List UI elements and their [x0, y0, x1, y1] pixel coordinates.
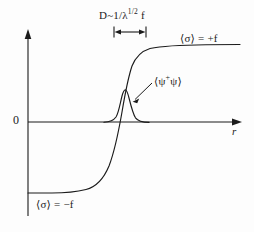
wall-width-label-tail: f — [138, 9, 145, 21]
measure-arrowhead-right — [139, 29, 146, 34]
x-axis — [28, 119, 242, 126]
y-axis-arrowhead — [25, 29, 32, 39]
condensate-label-tail: ψ⟩ — [170, 75, 182, 87]
wall-width-label-exponent: 1/2 — [128, 7, 138, 16]
wall-width-measure — [114, 27, 146, 38]
condensate-pointer-arrow — [133, 83, 152, 103]
pointer-line — [135, 83, 152, 100]
wall-width-label-base: D~1/λ — [99, 9, 128, 21]
sigma-positive-label: ⟨σ⟩ = +f — [180, 33, 218, 44]
origin-label: 0 — [13, 114, 19, 126]
x-axis-label: r — [232, 126, 236, 137]
sigma-negative-label: ⟨σ⟩ = −f — [36, 199, 74, 210]
wall-width-label: D~1/λ1/2 f — [99, 10, 145, 21]
condensate-label: ⟨ψ+ψ⟩ — [154, 76, 182, 87]
domain-wall-figure: D~1/λ1/2 f ⟨σ⟩ = +f ⟨ψ+ψ⟩ ⟨σ⟩ = −f 0 r — [0, 0, 254, 232]
condensate-label-base: ⟨ψ — [154, 75, 166, 87]
sigma-profile-curve — [28, 45, 240, 194]
measure-arrowhead-left — [115, 29, 122, 34]
condensate-peak-curve — [104, 90, 149, 123]
